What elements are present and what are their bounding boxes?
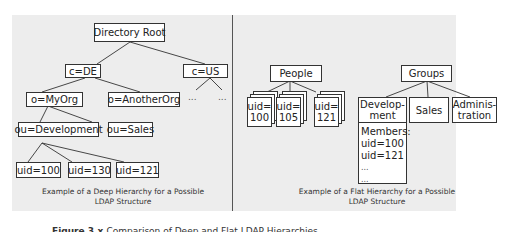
member-uid-121: uid=121 <box>361 150 404 162</box>
member-uid-100: uid=100 <box>361 138 404 150</box>
node-c-us: c=US <box>183 64 228 78</box>
deep-caption: Example of a Deep Hierarchy for a Possib… <box>30 187 216 207</box>
node-ou-sales: ou=Sales <box>108 122 153 137</box>
figure-caption: Figure 3.x Comparison of Deep and Flat L… <box>52 226 318 232</box>
node-o-myorg: o=MyOrg <box>26 92 83 107</box>
flat-caption-line1: Example of a Flat Hierarchy for a Possib… <box>280 187 474 197</box>
node-uid-121: uid=121 <box>116 162 159 178</box>
node-o-anotherorg: o=AnotherOrg <box>108 92 180 107</box>
node-c-de: c=DE <box>65 64 101 78</box>
node-uid-100: uid=100 <box>16 162 61 178</box>
uid-stack-100: uid= 100 <box>247 91 279 129</box>
ellipsis-us-2: ... <box>218 92 227 102</box>
node-people: People <box>270 65 322 82</box>
flat-caption-line2: LDAP Structure <box>280 197 474 207</box>
group-administration: Adminis- tration <box>452 97 497 123</box>
node-uid-130: uid=130 <box>68 162 111 178</box>
uid-card-121: uid= 121 <box>314 97 339 127</box>
uid-stack-121: uid= 121 <box>314 91 346 129</box>
ellipsis-us-1: ... <box>188 92 197 102</box>
deep-caption-line1: Example of a Deep Hierarchy for a Possib… <box>30 187 216 197</box>
figure-label: Figure 3.x <box>52 226 103 232</box>
deep-hierarchy-panel <box>12 15 232 211</box>
members-label: Members: <box>361 126 404 138</box>
flat-caption: Example of a Flat Hierarchy for a Possib… <box>280 187 474 207</box>
uid-card-105: uid= 105 <box>276 97 301 127</box>
node-ou-development: ou=Development <box>18 122 99 137</box>
figure-title: Comparison of Deep and Flat LDAP Hierarc… <box>106 226 317 232</box>
member-ellipsis-1: ... <box>361 162 404 174</box>
node-groups: Groups <box>401 65 452 82</box>
uid-card-100: uid= 100 <box>247 97 272 127</box>
uid-stack-105: uid= 105 <box>276 91 308 129</box>
node-directory-root: Directory Root <box>94 23 165 42</box>
group-sales: Sales <box>409 97 449 123</box>
group-development: Develop- ment <box>358 97 407 123</box>
group-development-members: Members: uid=100 uid=121 ... ... <box>358 122 407 184</box>
deep-caption-line2: LDAP Structure <box>30 197 216 207</box>
member-ellipsis-2: ... <box>361 174 404 186</box>
panel-divider <box>232 15 233 211</box>
